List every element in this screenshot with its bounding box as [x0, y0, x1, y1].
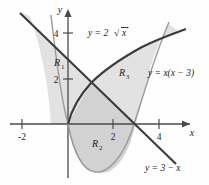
region-label-r1-text: R — [53, 57, 60, 68]
region-label-r3-text: R — [118, 67, 125, 78]
region-label-r2-sub: 2 — [99, 144, 103, 151]
y-axis-label: y — [57, 4, 63, 15]
x-tick-label-4: 4 — [157, 132, 162, 142]
y-tick-label-4: 4 — [54, 29, 59, 39]
x-axis-label: x — [189, 127, 195, 138]
region-label-r1-sub: 1 — [61, 63, 64, 70]
math-figure-plot: -2 2 4 2 4 x y y = 2 √ x y = x(x − 3) y … — [0, 0, 209, 185]
sqrt-curve-label: y = 2 √ x — [87, 28, 129, 39]
region-label-r2-text: R — [91, 138, 98, 149]
line-curve-label: y = 3 − x — [144, 163, 181, 173]
y-tick-label-2: 2 — [54, 75, 59, 85]
radicand-x: x — [121, 28, 127, 38]
radical-sign: √ — [114, 28, 120, 38]
x-tick-label-2: 2 — [111, 132, 116, 142]
figure-container: -2 2 4 2 4 x y y = 2 √ x y = x(x − 3) y … — [0, 0, 209, 185]
parabola-curve-label: y = x(x − 3) — [147, 68, 194, 79]
y-axis-arrow — [64, 9, 71, 17]
x-tick-label-minus2: -2 — [18, 132, 26, 142]
region-label-r3-sub: 3 — [126, 73, 130, 80]
sqrt-curve-label-text: y = 2 — [87, 28, 108, 38]
